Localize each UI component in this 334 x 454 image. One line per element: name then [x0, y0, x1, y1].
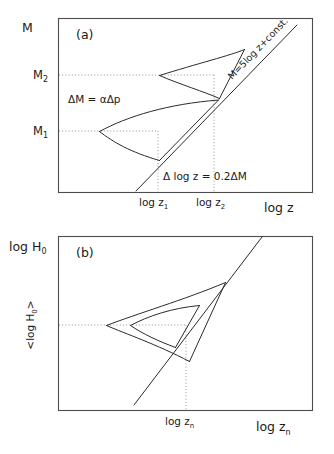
panel-a-xtick-logz2-sub: 2 [221, 203, 225, 211]
panel-b-xtick-sub: n [190, 422, 194, 430]
inner-wedge-closing-edge [176, 306, 200, 348]
panel-a-frame [59, 19, 313, 193]
panel-a-ytick-m2-sub: 2 [43, 75, 48, 84]
outer-wedge-top-arc [107, 283, 226, 326]
panel-a-tag: (a) [76, 27, 93, 42]
inner-wedge-top-arc [131, 306, 200, 326]
panel-b-ytick-close: > [24, 300, 36, 309]
panel-b-x-axis-label-base: log z [256, 419, 286, 434]
panel-a-ytick-m2-base: M [33, 68, 43, 82]
panel-a-xtick-logz2-base: log z [196, 196, 221, 208]
panel-a-y-axis-label: M [22, 20, 33, 35]
panel-b-ytick-mean-logH0: <log H0> [24, 300, 39, 349]
panel-b-frame [59, 237, 313, 411]
panel-a-xtick-logz1-base: log z [139, 196, 164, 208]
panel-a-ytick-m1-sub: 1 [43, 131, 48, 140]
panel-b-y-axis-label: log H0 [9, 239, 47, 256]
panel-b-y-axis-label-base: log H [9, 239, 41, 254]
annotation-delta-logz-relation: Δ log z = 0.2ΔM [163, 170, 247, 182]
figure-container: M (a) M2 M1 ΔM = αΔp Δ log z = 0.2ΔM M=5… [0, 0, 334, 454]
panel-a-ytick-m1: M1 [33, 124, 48, 140]
panel-a-xtick-logz1-sub: 1 [164, 203, 168, 211]
lower-wedge-closing-edge [160, 100, 219, 161]
panel-b-x-axis-label-sub: n [286, 428, 291, 437]
lower-wedge-bottom-arc [100, 132, 160, 161]
reference-line-hubble-redshift [134, 237, 262, 405]
upper-wedge-bottom-arc [160, 76, 220, 99]
reference-line-magnitude-redshift [136, 25, 297, 191]
panel-b: log H0 (b) <log H0> log zn log zn [0, 224, 334, 454]
panel-a-x-axis-label: log z [264, 200, 294, 215]
panel-b-xtick-logzn: log zn [165, 415, 194, 430]
panel-b-x-axis-label: log zn [256, 419, 291, 437]
panel-b-tag: (b) [76, 245, 94, 260]
panel-b-y-axis-label-sub: 0 [41, 247, 46, 256]
panel-a-xtick-logz2: log z2 [196, 196, 225, 211]
panel-a-ytick-m2: M2 [33, 68, 48, 84]
panel-a: M (a) M2 M1 ΔM = αΔp Δ log z = 0.2ΔM M=5… [0, 0, 334, 224]
outer-wedge-bottom-arc [107, 326, 190, 362]
panel-b-xtick-base: log z [165, 415, 190, 427]
annotation-diagonal-line-label: M=5log z+const. [226, 15, 290, 81]
panel-a-ytick-m1-base: M [33, 124, 43, 138]
panel-b-ytick-base: <log H [24, 314, 36, 350]
panel-a-xtick-logz1: log z1 [139, 196, 168, 211]
annotation-delta-m-relation: ΔM = αΔp [68, 93, 121, 105]
